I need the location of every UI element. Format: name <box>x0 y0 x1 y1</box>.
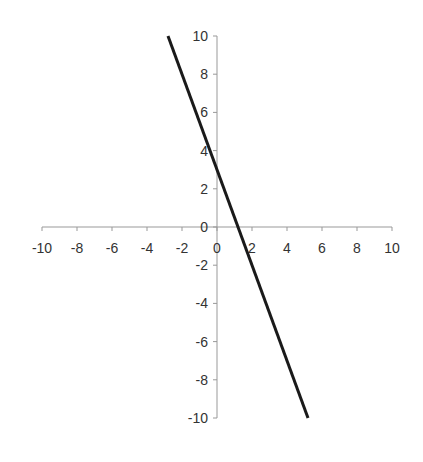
x-tick-label: 6 <box>318 240 326 256</box>
x-tick-label: 8 <box>353 240 361 256</box>
x-tick-label: -10 <box>32 240 52 256</box>
x-tick-label: 10 <box>384 240 400 256</box>
y-tick-label: 2 <box>200 181 208 197</box>
y-tick-label: -8 <box>196 372 209 388</box>
y-tick-label: -10 <box>188 410 208 426</box>
y-tick-label: -6 <box>196 334 209 350</box>
x-tick-label: -2 <box>176 240 189 256</box>
x-tick-label: 0 <box>213 240 221 256</box>
x-tick-label: 4 <box>283 240 291 256</box>
y-tick-label: 8 <box>200 66 208 82</box>
y-tick-label: 6 <box>200 104 208 120</box>
x-tick-label: -8 <box>71 240 84 256</box>
y-tick-label: -4 <box>196 295 209 311</box>
x-tick-label: -6 <box>106 240 119 256</box>
chart-plot-area: -10-8-6-4-202468101086420-2-4-6-8-10 <box>0 0 423 462</box>
y-tick-label: -2 <box>196 257 209 273</box>
y-tick-label: 0 <box>200 219 208 235</box>
y-tick-label: 10 <box>192 28 208 44</box>
x-tick-label: -4 <box>141 240 154 256</box>
